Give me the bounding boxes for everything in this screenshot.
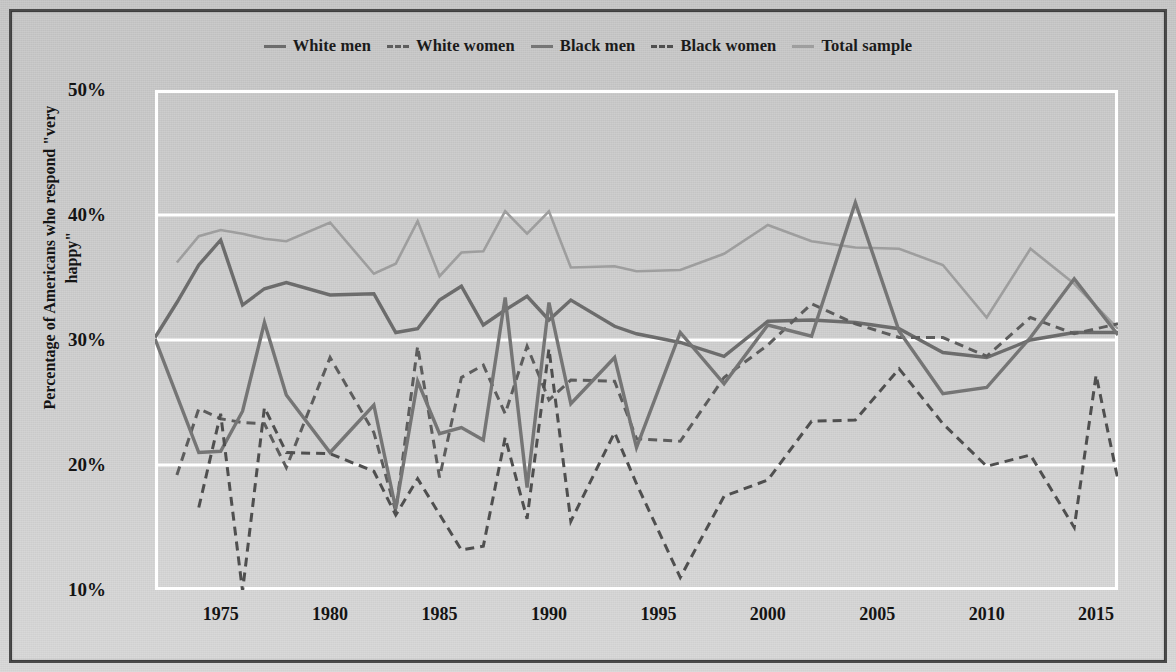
photo-frame-border bbox=[9, 9, 1167, 663]
chart-figure: White menWhite womenBlack menBlack women… bbox=[0, 0, 1176, 672]
